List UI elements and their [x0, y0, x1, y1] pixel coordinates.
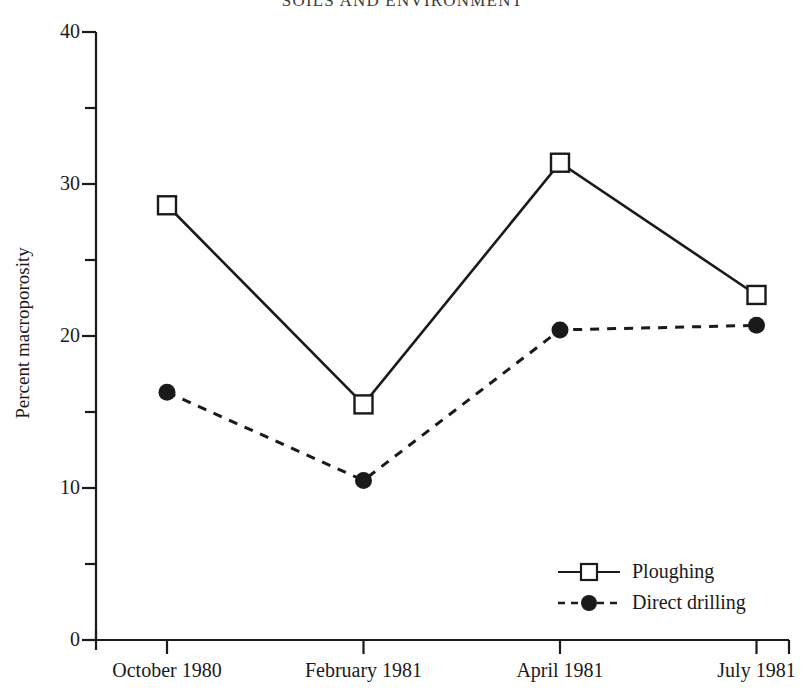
filled-circle-marker-icon: [556, 590, 622, 616]
legend-label-direct-drilling: Direct drilling: [622, 591, 746, 614]
data-point-ploughing-1: [355, 395, 373, 413]
data-point-direct-drilling-0: [159, 384, 176, 401]
axis-lines: [96, 32, 789, 640]
open-square-marker-icon: [556, 559, 622, 585]
data-point-ploughing-0: [158, 196, 176, 214]
data-point-direct-drilling-1: [355, 472, 372, 489]
figure-page: SOILS AND ENVIRONMENT Percent macroporos…: [0, 0, 805, 698]
y-tick-label: 40: [34, 21, 80, 41]
x-tick-label: February 1981: [269, 660, 459, 680]
y-tick-label: 0: [34, 629, 80, 649]
x-axis-ticks: [96, 630, 789, 654]
series-line-direct-drilling: [167, 325, 757, 480]
legend-key-direct-drilling: [556, 590, 622, 616]
data-point-ploughing-2: [551, 154, 569, 172]
y-tick-label: 30: [34, 173, 80, 193]
legend-key-ploughing: [556, 559, 622, 585]
series-lines: [167, 163, 757, 481]
y-tick-label: 10: [34, 477, 80, 497]
x-tick-label: April 1981: [465, 660, 655, 680]
series-markers: [158, 154, 766, 489]
legend-label-ploughing: Ploughing: [622, 560, 714, 583]
y-axis-title-text: Percent macroporosity: [12, 247, 34, 418]
data-point-direct-drilling-3: [748, 317, 765, 334]
data-point-direct-drilling-2: [552, 321, 569, 338]
x-tick-label: July 1981: [662, 660, 805, 680]
data-point-ploughing-3: [748, 286, 766, 304]
x-tick-label: October 1980: [72, 660, 262, 680]
legend-item-ploughing: Ploughing: [556, 556, 801, 587]
y-axis-ticks: [82, 32, 96, 640]
y-tick-label: 20: [34, 325, 80, 345]
series-line-ploughing: [167, 163, 757, 405]
line-chart-figure: Percent macroporosity 010203040 October …: [0, 0, 805, 698]
chart-legend: Ploughing Direct drilling: [556, 556, 801, 618]
legend-item-direct-drilling: Direct drilling: [556, 587, 801, 618]
